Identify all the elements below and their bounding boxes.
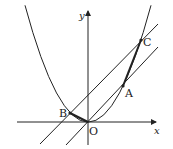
x-axis-label: x [154, 125, 160, 136]
segment-BO [70, 113, 88, 122]
segment-AC [123, 40, 141, 86]
label-B: B [59, 107, 67, 120]
coordinate-diagram: B A C O x y [0, 0, 173, 149]
point-B [68, 111, 71, 114]
label-O: O [89, 125, 98, 138]
y-axis-label: y [78, 10, 85, 21]
line-OA [66, 47, 158, 145]
label-C: C [143, 36, 151, 49]
label-A: A [124, 87, 134, 100]
